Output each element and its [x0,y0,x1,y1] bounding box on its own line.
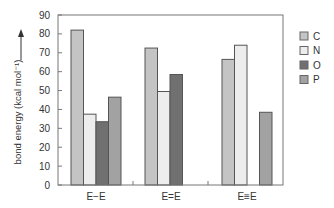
bond-energy-bar-chart: 0102030405060708090 E−EE=EE≡E bond energ… [0,0,334,208]
bar-o-group-1 [96,122,109,185]
bars [71,30,272,185]
y-tick-label: 30 [39,123,51,134]
legend: CNOP [300,31,321,86]
bar-n-group-2 [158,92,171,186]
bar-n-group-1 [84,114,97,185]
x-category-label: E=E [161,191,181,202]
legend-label-p: P [313,74,320,85]
legend-label-n: N [313,45,320,56]
legend-label-o: O [313,60,321,71]
y-tick-label: 90 [39,10,51,21]
y-axis-ticks [58,15,62,185]
bar-o-group-2 [170,75,183,186]
y-axis-title: bond energy (kcal mol⁻¹) [12,60,23,165]
x-axis-category-labels: E−EE=EE≡E [86,191,257,202]
bar-c-group-1 [71,30,84,185]
legend-swatch-o [300,61,308,69]
y-axis-arrow-icon [18,29,24,60]
x-category-label: E≡E [237,191,257,202]
legend-label-c: C [313,31,320,42]
y-tick-label: 40 [39,104,51,115]
x-category-label: E−E [86,191,106,202]
bar-n-group-3 [235,45,248,185]
y-tick-label: 60 [39,66,51,77]
y-tick-label: 20 [39,142,51,153]
y-tick-label: 80 [39,28,51,39]
legend-swatch-c [300,32,308,40]
bar-p-group-1 [109,97,122,185]
y-axis-title-text: bond energy (kcal mol⁻¹) [12,60,23,165]
bar-p-group-3 [260,112,273,185]
legend-swatch-n [300,47,308,55]
legend-swatch-p [300,76,308,84]
y-tick-label: 70 [39,47,51,58]
y-tick-label: 10 [39,161,51,172]
y-tick-label: 50 [39,85,51,96]
bar-c-group-2 [145,48,158,185]
y-tick-label: 0 [44,180,50,191]
bar-c-group-3 [222,59,235,185]
y-axis-tick-labels: 0102030405060708090 [39,10,51,191]
